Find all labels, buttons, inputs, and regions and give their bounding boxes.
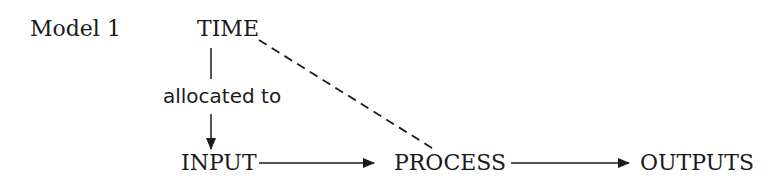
model-title: Model 1 — [30, 18, 121, 40]
node-outputs: OUTPUTS — [640, 152, 754, 174]
node-time: TIME — [197, 18, 259, 40]
edge-label-allocated-to: allocated to — [163, 86, 281, 106]
node-process: PROCESS — [394, 152, 506, 174]
time-to-process-dashed-line — [259, 40, 432, 148]
node-input: INPUT — [181, 152, 257, 174]
